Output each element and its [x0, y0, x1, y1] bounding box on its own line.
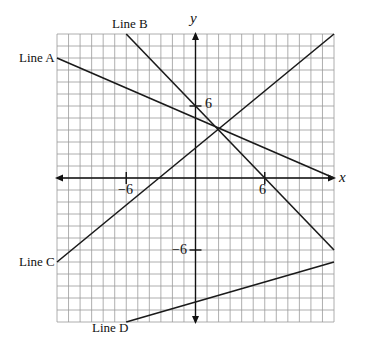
label-line-d: Line D [92, 320, 128, 336]
tick-label-y-neg6: −6 [172, 242, 187, 258]
arrow-up-icon [192, 32, 199, 40]
arrow-down-icon [192, 316, 199, 324]
arrow-left-icon [55, 175, 63, 182]
tick-label-y-6: 6 [205, 96, 212, 112]
label-line-b: Line B [112, 16, 148, 32]
label-line-a: Line A [19, 50, 55, 66]
label-line-c: Line C [19, 254, 55, 270]
x-axis-label: x [339, 169, 346, 186]
y-axis-label: y [190, 10, 197, 27]
coordinate-plane: Line B Line A Line C Line D y x −6 6 6 −… [0, 0, 365, 337]
tick-label-x-neg6: −6 [118, 182, 133, 198]
tick-label-x-6: 6 [259, 182, 266, 198]
